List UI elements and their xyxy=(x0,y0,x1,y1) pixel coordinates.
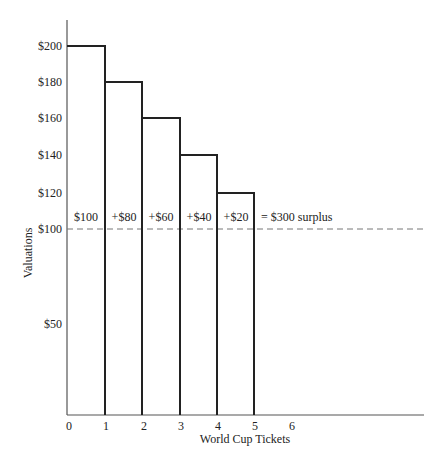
x-tick: 6 xyxy=(289,419,295,433)
bar-3 xyxy=(142,118,180,415)
y-tick: $160 xyxy=(38,111,62,125)
chart-canvas: $200 $180 $160 $140 $120 $100 $50 0 1 2 … xyxy=(0,0,442,462)
y-axis-title: Valuations xyxy=(21,227,35,278)
valuation-bars xyxy=(67,46,254,415)
surplus-label: +$80 xyxy=(112,210,137,224)
consumer-surplus-chart: $200 $180 $160 $140 $120 $100 $50 0 1 2 … xyxy=(0,0,442,462)
y-tick: $200 xyxy=(38,39,62,53)
x-tick: 3 xyxy=(178,419,184,433)
bar-4 xyxy=(180,155,217,415)
surplus-label: $100 xyxy=(74,210,98,224)
surplus-label: +$20 xyxy=(224,210,249,224)
x-tick: 5 xyxy=(252,419,258,433)
surplus-annotations: $100 +$80 +$60 +$40 +$20 = $300 surplus xyxy=(74,210,333,224)
y-tick: $140 xyxy=(38,148,62,162)
y-tick: $50 xyxy=(44,317,62,331)
bar-1 xyxy=(67,46,105,415)
x-tick: 2 xyxy=(141,419,147,433)
x-tick: 4 xyxy=(215,419,221,433)
y-tick: $120 xyxy=(38,186,62,200)
bar-2 xyxy=(105,82,142,415)
surplus-label: +$40 xyxy=(187,210,212,224)
x-tick: 1 xyxy=(103,419,109,433)
x-tick-labels: 0 1 2 3 4 5 6 xyxy=(66,419,295,433)
bar-5 xyxy=(217,193,254,415)
y-tick-labels: $200 $180 $160 $140 $120 $100 $50 xyxy=(38,39,62,331)
x-axis-title: World Cup Tickets xyxy=(200,432,291,446)
total-surplus-label: = $300 surplus xyxy=(261,210,333,224)
y-tick: $100 xyxy=(38,222,62,236)
surplus-label: +$60 xyxy=(149,210,174,224)
x-tick: 0 xyxy=(66,419,72,433)
y-tick: $180 xyxy=(38,75,62,89)
